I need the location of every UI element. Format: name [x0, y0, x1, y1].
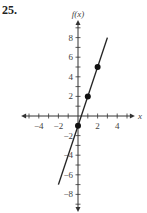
- function-graph: −4−2248642−2−4−6−8xf(x): [0, 0, 147, 213]
- y-tick-label: 8: [69, 33, 74, 43]
- x-tick-label: −2: [54, 121, 64, 131]
- y-axis-down-arrow-icon: [76, 207, 81, 212]
- data-point: [75, 123, 81, 129]
- x-tick-label: −4: [34, 121, 44, 131]
- x-axis-label: x: [137, 111, 142, 121]
- y-axis-up-arrow-icon: [76, 20, 81, 25]
- y-tick-label: −8: [63, 189, 73, 199]
- function-line: [58, 38, 107, 185]
- data-point: [95, 64, 101, 70]
- x-tick-label: 4: [115, 121, 120, 131]
- x-axis-left-arrow-icon: [21, 114, 26, 119]
- y-axis-label: f(x): [72, 9, 85, 19]
- y-tick-label: 2: [69, 91, 74, 101]
- y-tick-label: 6: [69, 52, 74, 62]
- y-tick-label: −2: [63, 131, 73, 141]
- x-tick-label: 2: [95, 121, 100, 131]
- x-axis-right-arrow-icon: [130, 114, 135, 119]
- y-tick-label: 4: [69, 72, 74, 82]
- y-tick-label: −6: [63, 170, 73, 180]
- data-point: [85, 93, 91, 99]
